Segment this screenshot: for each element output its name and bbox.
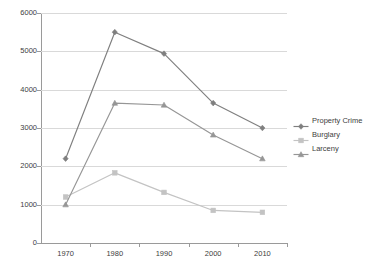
data-point: [63, 195, 68, 200]
series-line: [66, 103, 263, 205]
data-point: [162, 190, 167, 195]
data-point: [210, 132, 216, 137]
data-point: [260, 210, 265, 215]
legend-label: Larceny: [312, 145, 339, 153]
data-point: [113, 171, 118, 176]
data-point: [260, 156, 266, 161]
chart-legend: Property CrimeBurglaryLarceny: [293, 114, 370, 156]
series-burglary: [63, 171, 264, 215]
x-axis-tick: [90, 243, 91, 247]
y-axis-tick-label: 6000: [3, 9, 37, 17]
y-axis-tick-label: 4000: [3, 86, 37, 94]
series-property-crime: [63, 29, 265, 161]
legend-item-larceny[interactable]: Larceny: [293, 142, 370, 156]
legend-item-burglary[interactable]: Burglary: [293, 128, 370, 142]
y-axis-tick: [37, 90, 41, 91]
y-axis-labels: 0100020003000400050006000: [0, 0, 37, 271]
x-axis-tick-label: 2000: [190, 250, 236, 258]
series-layer: [41, 13, 287, 243]
y-axis-tick-label: 5000: [3, 48, 37, 56]
y-axis-tick: [37, 243, 41, 244]
legend-marker-diamond-icon: [293, 117, 309, 126]
data-point: [260, 125, 265, 131]
plot-area: [41, 13, 287, 243]
data-point: [63, 202, 69, 207]
data-point: [63, 156, 68, 162]
x-axis-tick-label: 2010: [239, 250, 285, 258]
legend-marker-triangle-icon: [293, 145, 309, 154]
legend-label: Property Crime: [312, 117, 362, 125]
y-axis-tick: [37, 205, 41, 206]
legend-label: Burglary: [312, 131, 340, 139]
x-axis-tick-label: 1980: [92, 250, 138, 258]
y-axis-tick: [37, 128, 41, 129]
y-axis-tick-label: 1000: [3, 201, 37, 209]
x-axis-tick-label: 1990: [141, 250, 187, 258]
y-axis-tick: [37, 13, 41, 14]
x-axis-tick: [139, 243, 140, 247]
x-axis-tick: [238, 243, 239, 247]
data-point: [211, 208, 216, 213]
x-axis-line: [41, 243, 288, 244]
y-axis-tick-label: 2000: [3, 163, 37, 171]
y-axis-tick: [37, 166, 41, 167]
legend-marker-square-icon: [293, 131, 309, 140]
x-axis-tick: [287, 243, 288, 247]
data-point: [112, 29, 117, 35]
y-axis-tick-label: 0: [3, 239, 37, 247]
x-axis-tick-label: 1970: [43, 250, 89, 258]
legend-item-property-crime[interactable]: Property Crime: [293, 114, 370, 128]
x-axis-tick: [189, 243, 190, 247]
line-chart: 0100020003000400050006000 19701980199020…: [0, 0, 370, 271]
y-axis-tick: [37, 51, 41, 52]
y-axis-tick-label: 3000: [3, 124, 37, 132]
